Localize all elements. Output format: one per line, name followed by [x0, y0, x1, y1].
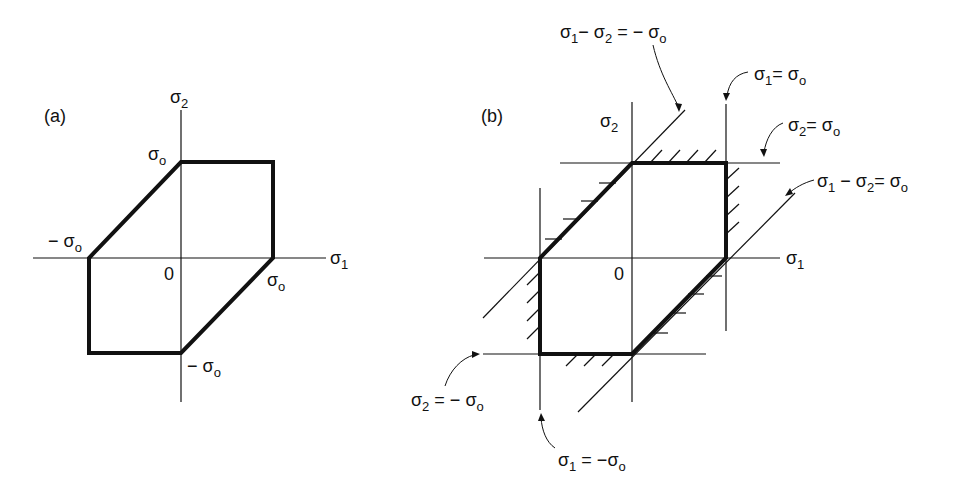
arrow-s2-neg: [445, 355, 474, 386]
b-sigma2-label: σ2: [600, 112, 618, 134]
b-annotation-diag-lower: σ1 − σ2= σo: [817, 172, 908, 194]
arrowhead-s1-pos: [723, 93, 730, 101]
b-annotation-s1-pos: σ1= σo: [754, 65, 806, 87]
a-sigma1-label: σ1: [330, 249, 348, 271]
b-annotation-s2-neg: σ2 = − σo: [411, 391, 484, 413]
b-annotation-s1-neg: σ1 = −σo: [558, 451, 626, 473]
a-top-label: σo: [148, 145, 166, 167]
a-panel-label: (a): [44, 107, 66, 125]
a-sigma2-label: σ2: [170, 88, 188, 110]
b-panel-label: (b): [481, 107, 503, 125]
arrow-s1-neg: [541, 418, 555, 448]
b-line-diag-lower: [578, 193, 795, 412]
arrow-diag-lower: [789, 180, 814, 193]
a-origin-label: 0: [164, 265, 174, 283]
yield-surface-diagrams: [0, 0, 959, 497]
arrow-diag-upper: [653, 45, 679, 108]
arrowhead-s1-neg: [538, 413, 545, 421]
b-sigma1-label: σ1: [786, 249, 804, 271]
arrowhead-diag-lower: [785, 188, 793, 196]
arrowhead-diag-upper: [675, 103, 682, 112]
a-right-label: σo: [267, 271, 285, 293]
a-left-label: − σo: [48, 232, 82, 254]
b-annotation-s2-pos: σ2= σo: [788, 116, 840, 138]
a-bottom-label: − σo: [187, 357, 221, 379]
arrow-s1-pos: [727, 72, 748, 96]
arrowhead-s2-neg: [472, 351, 480, 358]
b-annotation-diag-upper: σ1− σ2 = − σo: [560, 23, 667, 45]
arrow-s2-pos: [764, 123, 783, 152]
b-origin-label: 0: [614, 265, 624, 283]
arrowhead-s2-pos: [760, 149, 767, 157]
